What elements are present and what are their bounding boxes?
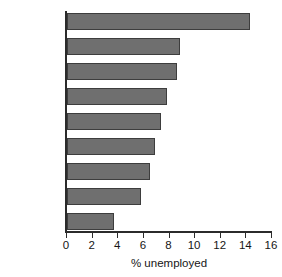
bar [67, 88, 167, 105]
x-tick-label: 8 [155, 238, 183, 252]
bar [67, 188, 141, 205]
x-tick-label: 12 [206, 238, 234, 252]
x-tick-label: 0 [52, 238, 80, 252]
bar [67, 63, 177, 80]
bar [67, 113, 161, 130]
plot-area: SpainFrancePolandGermanySwedenItalyUKCze… [0, 0, 282, 240]
bar [67, 38, 180, 55]
x-tick-label: 10 [180, 238, 208, 252]
unemployment-bar-chart: SpainFrancePolandGermanySwedenItalyUKCze… [0, 0, 282, 277]
x-tick-label: 6 [129, 238, 157, 252]
bar [67, 163, 150, 180]
bar [67, 138, 155, 155]
x-tick-label: 16 [257, 238, 282, 252]
x-tick-label: 4 [103, 238, 131, 252]
x-tick-label: 2 [78, 238, 106, 252]
bar [67, 213, 114, 230]
x-axis-title: % unemployed [66, 256, 272, 270]
x-tick-label: 14 [231, 238, 259, 252]
bar [67, 13, 250, 30]
